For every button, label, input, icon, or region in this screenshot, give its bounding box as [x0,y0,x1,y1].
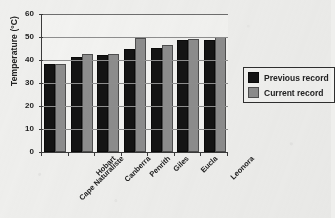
bar-current-record [135,38,146,152]
bar-previous-record [44,64,55,152]
x-axis-tick-label: Penrith [147,154,172,179]
legend-label: Current record [264,88,324,98]
x-axis-tick-label: Eucla [199,154,220,175]
y-axis-tick-label: 50 [14,32,34,41]
legend-item-previous-record: Previous record [248,72,329,83]
bar-current-record [215,37,226,152]
y-axis-tick-label: 30 [14,78,34,87]
bar-current-record [188,39,199,152]
bar-previous-record [124,49,135,152]
y-axis-tick-mark [39,129,43,130]
y-axis-tick-mark [39,37,43,38]
bar-previous-record [97,55,108,152]
chart-legend: Previous record Current record [243,67,335,103]
x-axis-tick-label: Cape Naturaliste [77,154,125,202]
y-axis-tick-mark [39,60,43,61]
bar-previous-record [177,40,188,152]
bar-previous-record [151,48,162,152]
gridline [42,60,228,61]
bar-current-record [108,54,119,152]
gridline [42,37,228,38]
y-axis-tick-label: 0 [14,147,34,156]
black-square-swatch-icon [248,72,259,83]
y-axis-tick-mark [39,106,43,107]
x-axis-tick-label: Leonora [228,154,255,181]
y-axis-tick-label: 10 [14,124,34,133]
y-axis-tick-label: 20 [14,101,34,110]
y-axis-tick-labels: 6050403020100 [12,0,34,218]
y-axis-tick-label: 60 [14,9,34,18]
bar-current-record [162,45,173,152]
bar-previous-record [71,57,82,152]
x-axis-tick-label: Giles [172,154,191,173]
gridline [42,129,228,130]
x-axis-tick-labels: Cape NaturalisteHobartCanberraPenrithGil… [41,154,231,218]
y-axis-tick-mark [39,14,43,15]
gridline [42,83,228,84]
bar-current-record [82,54,93,152]
legend-label: Previous record [264,73,329,83]
x-axis-tick-label: Canberra [123,154,153,184]
bar-current-record [55,64,66,152]
gridline [42,106,228,107]
y-axis-tick-mark [39,83,43,84]
bar-previous-record [204,40,215,152]
y-axis-tick-label: 40 [14,55,34,64]
gray-square-swatch-icon [248,87,259,98]
legend-item-current-record: Current record [248,87,329,98]
y-axis-tick-mark [39,152,43,153]
plot-area [41,14,228,153]
